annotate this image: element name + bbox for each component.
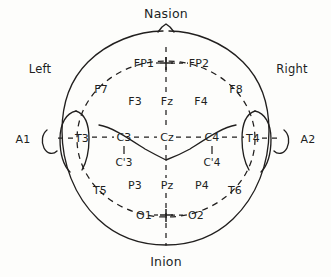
label-electrode-a2: A2 <box>301 134 316 145</box>
label-electrode-c4: C4 <box>205 132 220 143</box>
occipital-midline-cross-icon <box>160 209 173 222</box>
label-right-side: Right <box>276 64 307 76</box>
label-left-side: Left <box>29 64 51 76</box>
label-electrode-o2: O2 <box>188 210 204 221</box>
label-electrode-f8: F8 <box>229 84 243 95</box>
label-nasion: Nasion <box>144 8 188 21</box>
label-electrode-f3: F3 <box>128 96 142 107</box>
label-electrode-fp2: FP2 <box>189 58 209 69</box>
label-electrode-cz: Cz <box>160 132 174 143</box>
label-electrode-t4: T4 <box>246 133 260 144</box>
label-electrode-p3: P3 <box>128 180 142 191</box>
eeg-10-20-diagram: Nasion Inion Left Right A1 A2 FP1 FP2 F7… <box>0 0 331 277</box>
label-electrode-o1: O1 <box>136 210 152 221</box>
label-electrode-t6: T6 <box>228 185 242 196</box>
central-sulcus-right <box>166 125 236 160</box>
label-electrode-c3-prime: C'3 <box>115 157 132 168</box>
central-sulcus-left <box>99 125 166 160</box>
label-electrode-a1: A1 <box>16 134 31 145</box>
label-electrode-f4: F4 <box>194 96 208 107</box>
label-electrode-fz: Fz <box>161 96 173 107</box>
left-earlobe-reference-curve <box>42 130 57 153</box>
label-electrode-fp1: FP1 <box>134 58 154 69</box>
label-electrode-t3: T3 <box>75 133 89 144</box>
frontal-midline-cross-icon <box>160 57 173 70</box>
label-electrode-pz: Pz <box>161 180 174 191</box>
prime-electrode-stems <box>124 146 212 154</box>
label-electrode-c4-prime: C'4 <box>203 157 220 168</box>
label-electrode-c3: C3 <box>117 132 132 143</box>
label-electrode-t5: T5 <box>93 185 107 196</box>
right-earlobe-reference-curve <box>274 130 289 153</box>
label-electrode-f7: F7 <box>94 84 108 95</box>
label-electrode-p4: P4 <box>195 180 209 191</box>
label-inion: Inion <box>150 256 182 269</box>
